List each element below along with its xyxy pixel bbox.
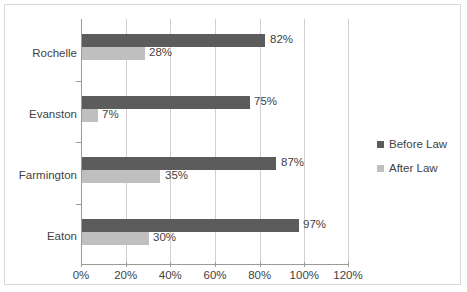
bar-group-rochelle: 82% 28%	[82, 34, 349, 60]
x-tick-mark-120	[348, 262, 349, 267]
x-tick-mark-60	[215, 262, 216, 267]
bar-evanston-after-law[interactable]	[82, 109, 98, 122]
plot-area: 82% 28% 75% 7% 87%	[81, 19, 349, 265]
bar-row-eaton-before: 97%	[82, 219, 349, 232]
bar-row-evanston-before: 75%	[82, 96, 349, 109]
category-tick-3	[76, 204, 81, 205]
bar-row-eaton-after: 30%	[82, 232, 349, 245]
bar-value-evanston-before: 75%	[254, 94, 277, 109]
bar-group-eaton: 97% 30%	[82, 219, 349, 245]
bar-row-farmington-after: 35%	[82, 170, 349, 183]
bar-value-farmington-after: 35%	[165, 168, 188, 183]
y-axis-label-farmington: Farmington	[3, 169, 77, 181]
legend-label-before-law: Before Law	[389, 138, 447, 150]
x-tick-mark-20	[126, 262, 127, 267]
legend-item-after-law[interactable]: After Law	[377, 162, 459, 174]
bar-value-farmington-before: 87%	[281, 155, 304, 170]
chart-legend: Before Law After Law	[377, 138, 459, 186]
x-tick-label-20: 20%	[114, 269, 137, 281]
bar-rochelle-before-law[interactable]	[82, 34, 265, 47]
legend-swatch-icon-after-law	[377, 165, 384, 172]
y-axis-label-eaton: Eaton	[3, 230, 77, 242]
bar-value-rochelle-after: 28%	[149, 45, 172, 60]
x-tick-label-0: 0%	[73, 269, 90, 281]
bar-group-evanston: 75% 7%	[82, 96, 349, 122]
category-tick-1	[76, 81, 81, 82]
chart-frame: Rochelle Evanston Farmington Eaton 82% 2…	[4, 4, 461, 285]
x-tick-mark-100	[304, 262, 305, 267]
x-axis-tick-labels: 0% 20% 40% 60% 80% 100% 120%	[81, 267, 349, 287]
bar-group-farmington: 87% 35%	[82, 157, 349, 183]
legend-label-after-law: After Law	[389, 162, 438, 174]
bar-row-rochelle-before: 82%	[82, 34, 349, 47]
bar-row-rochelle-after: 28%	[82, 47, 349, 60]
x-tick-mark-0	[81, 262, 82, 267]
bar-value-eaton-before: 97%	[303, 217, 326, 232]
bar-value-evanston-after: 7%	[102, 107, 119, 122]
legend-swatch-icon-before-law	[377, 141, 384, 148]
x-tick-mark-80	[260, 262, 261, 267]
legend-item-before-law[interactable]: Before Law	[377, 138, 459, 150]
bar-rochelle-after-law[interactable]	[82, 47, 145, 60]
bar-value-rochelle-before: 82%	[270, 32, 293, 47]
bar-eaton-after-law[interactable]	[82, 232, 149, 245]
x-tick-label-40: 40%	[159, 269, 182, 281]
bar-value-eaton-after: 30%	[153, 230, 176, 245]
bar-farmington-after-law[interactable]	[82, 170, 160, 183]
category-tick-2	[76, 142, 81, 143]
y-axis-label-evanston: Evanston	[3, 108, 77, 120]
y-axis-category-labels: Rochelle Evanston Farmington Eaton	[5, 19, 77, 265]
x-tick-label-100: 100%	[290, 269, 319, 281]
bar-eaton-before-law[interactable]	[82, 219, 299, 232]
x-tick-label-80: 80%	[248, 269, 271, 281]
bar-row-evanston-after: 7%	[82, 109, 349, 122]
y-axis-label-rochelle: Rochelle	[3, 47, 77, 59]
bar-row-farmington-before: 87%	[82, 157, 349, 170]
x-tick-mark-40	[170, 262, 171, 267]
x-tick-label-60: 60%	[203, 269, 226, 281]
x-tick-label-120: 120%	[333, 269, 362, 281]
